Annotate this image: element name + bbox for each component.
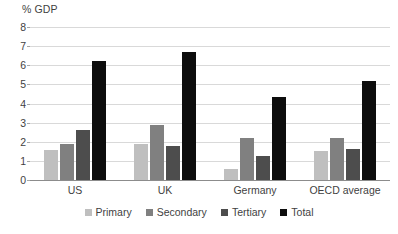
bar[interactable] <box>182 52 196 180</box>
bar[interactable] <box>76 130 90 180</box>
bar[interactable] <box>60 144 74 180</box>
bar[interactable] <box>314 151 328 180</box>
bar-slot <box>150 27 164 180</box>
legend-swatch-icon <box>146 209 153 216</box>
bar-slot <box>166 27 180 180</box>
x-axis-category-label: OECD average <box>300 182 390 198</box>
y-axis-title: % GDP <box>22 3 58 15</box>
bar-group <box>210 27 300 180</box>
legend-item[interactable]: Total <box>280 207 313 218</box>
bar-slot <box>346 27 360 180</box>
bar[interactable] <box>346 149 360 180</box>
bar-slot <box>256 27 270 180</box>
bar[interactable] <box>224 169 238 180</box>
bar-slot <box>272 27 286 180</box>
bar[interactable] <box>150 125 164 180</box>
bar-slot <box>134 27 148 180</box>
bar[interactable] <box>330 138 344 180</box>
bar-slot <box>314 27 328 180</box>
bar-groups <box>30 27 390 180</box>
x-axis-category-label: Germany <box>210 182 300 198</box>
bar-slot <box>330 27 344 180</box>
bar[interactable] <box>240 138 254 180</box>
legend-swatch-icon <box>85 209 92 216</box>
bar[interactable] <box>44 150 58 180</box>
legend-item[interactable]: Secondary <box>146 207 207 218</box>
bar-slot <box>60 27 74 180</box>
chart-legend: PrimarySecondaryTertiaryTotal <box>0 207 398 218</box>
bar[interactable] <box>272 97 286 180</box>
legend-label: Total <box>291 207 313 218</box>
legend-label: Primary <box>96 207 132 218</box>
bar[interactable] <box>92 61 106 180</box>
legend-swatch-icon <box>280 209 287 216</box>
legend-label: Tertiary <box>232 207 266 218</box>
bar-slot <box>182 27 196 180</box>
bar-group <box>30 27 120 180</box>
bar-slot <box>362 27 376 180</box>
x-axis-category-labels: USUKGermanyOECD average <box>30 182 390 198</box>
plot-area <box>30 27 390 180</box>
bar-slot <box>44 27 58 180</box>
bar-slot <box>92 27 106 180</box>
bar-group <box>300 27 390 180</box>
legend-swatch-icon <box>221 209 228 216</box>
bar-slot <box>76 27 90 180</box>
legend-item[interactable]: Primary <box>85 207 132 218</box>
bar[interactable] <box>362 81 376 180</box>
y-axis-tick-marks <box>0 27 30 180</box>
x-axis-category-label: US <box>30 182 120 198</box>
bar-slot <box>240 27 254 180</box>
x-axis-category-label: UK <box>120 182 210 198</box>
bar-group <box>120 27 210 180</box>
bar-slot <box>224 27 238 180</box>
bar[interactable] <box>134 144 148 180</box>
bar-chart: % GDP 012345678 USUKGermanyOECD average … <box>0 0 398 234</box>
axis-baseline <box>30 180 390 181</box>
bar[interactable] <box>166 146 180 180</box>
legend-item[interactable]: Tertiary <box>221 207 266 218</box>
bar[interactable] <box>256 156 270 180</box>
legend-label: Secondary <box>157 207 207 218</box>
